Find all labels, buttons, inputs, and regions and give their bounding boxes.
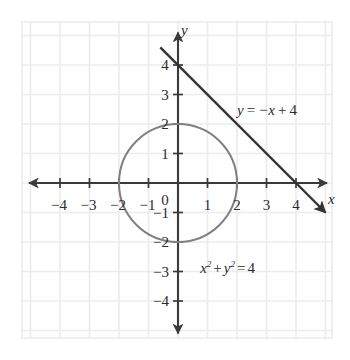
line-eq-rhs-term1: −x [258,102,275,118]
x-tick-label: 4 [292,198,300,213]
line-eq-rhs-term2: 4 [289,102,297,118]
x-tick-label: 2 [233,198,241,213]
circle-equation-label: x2+y2=4 [200,260,255,276]
y-tick-label: 1 [161,146,169,161]
coordinate-plane-svg [0,0,350,360]
x-tick-label: 1 [204,198,212,213]
circle-eq-x: x [200,260,207,276]
x-tick-label: −2 [110,198,126,213]
y-tick-label: −3 [153,264,169,279]
y-axis-label: y [181,23,188,38]
y-tick-label: 3 [161,87,169,102]
y-tick-label: −4 [153,294,169,309]
line-eq-plus: + [278,102,286,118]
circle-eq-plus: + [213,260,221,276]
y-tick-label: 2 [161,117,169,132]
graph-figure: −4−3−2−112344321−1−2−3−40 x y y=−x+4 x2+… [0,0,350,360]
line-curve [160,47,325,212]
x-tick-label: 3 [263,198,271,213]
y-tick-label: 4 [161,58,169,73]
origin-label: 0 [161,193,169,208]
circle-eq-rhs: 4 [247,260,255,276]
line-equation-label: y=−x+4 [237,103,297,118]
y-tick-label: −2 [153,235,169,250]
x-tick-label: −3 [81,198,97,213]
line-eq-equals: = [247,102,255,118]
circle-eq-y-exponent: 2 [230,259,235,269]
x-axis-label: x [328,192,335,207]
axis-lines [29,33,327,334]
x-tick-label: −4 [51,198,67,213]
circle-eq-x-exponent: 2 [207,259,212,269]
line-eq-lhs: y [237,102,244,118]
circle-eq-equals: = [237,260,245,276]
